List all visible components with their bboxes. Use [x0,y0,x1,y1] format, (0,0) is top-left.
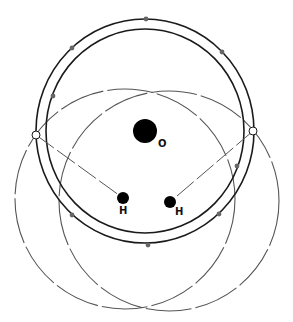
left-open-node [32,131,40,139]
left-bond-line [36,135,123,198]
ring-dot [70,46,75,51]
atoms: OHH [117,119,183,217]
atom-h1 [117,192,129,204]
ring-dot [235,164,240,169]
water-molecule-diagram: OHH [0,0,293,322]
ring-dot [146,243,151,248]
right-bond-line [170,131,253,202]
atom-label-h2: H [175,206,183,217]
ring-dot [51,94,56,99]
ring-dot [144,17,149,22]
atom-label-o: O [158,138,167,149]
ring-dot [217,212,222,217]
ring-dot [70,213,75,218]
atom-o [133,119,157,143]
ring-dot [220,50,225,55]
atom-label-h1: H [119,205,127,216]
right-open-node [249,127,257,135]
